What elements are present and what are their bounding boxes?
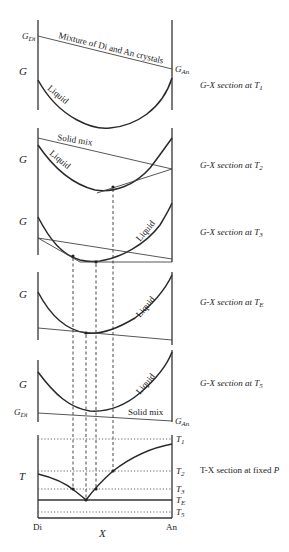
projection-lines (73, 189, 113, 500)
tangent-point-right (94, 260, 97, 263)
panel-caption: G-X section at T2 (200, 160, 263, 172)
panel-caption: G-X section at T3 (200, 227, 263, 239)
g-di-label: GDi (22, 31, 36, 43)
panel-t1: G GDi GAn Mixture of Di and An crystals … (19, 20, 263, 128)
solid-mix-line (38, 238, 172, 259)
panel-caption: G-X section at T5 (200, 378, 263, 390)
t-axis-label: T (19, 470, 26, 482)
g-axis-label: G (19, 215, 27, 227)
g-axis-label: G (19, 288, 27, 300)
solid-mix-line (38, 328, 172, 340)
g-axis-label: G (19, 378, 27, 390)
t2-label: T2 (176, 466, 185, 478)
liquidus-di (38, 474, 86, 500)
g-axis-label: G (19, 65, 27, 77)
liquid-label: Liquid (134, 294, 157, 319)
t5-label: T5 (176, 507, 185, 519)
solid-mixture-label: Mixture of Di and An crystals (58, 30, 165, 66)
point-t2 (111, 469, 114, 472)
g-x-t-x-diagram: G GDi GAn Mixture of Di and An crystals … (0, 0, 289, 552)
tx-caption: T-X section at fixed P (200, 465, 280, 475)
tangent-point-left (71, 254, 74, 257)
panel-t5: G GDi GAn Liquid Solid mix G-X section a… (14, 350, 263, 428)
panel-t3: G Liquid G-X section at T3 (19, 197, 263, 264)
an-label: An (166, 522, 177, 532)
tangent-line (97, 169, 172, 193)
panel-t2: G Solid mix Liquid G-X section at T2 (19, 128, 263, 197)
liquid-label: Liquid (48, 148, 73, 171)
eutectic-point (84, 498, 87, 501)
g-an-label: GAn (175, 416, 190, 428)
liquid-curve (38, 138, 172, 191)
g-di-label: GDi (14, 407, 28, 419)
liquid-label: Liquid (134, 371, 157, 396)
point-t3-left (71, 487, 74, 490)
liquidus-an (86, 444, 172, 500)
g-axis-label: G (19, 153, 27, 165)
x-axis-label: X (98, 527, 107, 539)
g-an-label: GAn (175, 64, 190, 76)
liquid-label: Liquid (46, 83, 71, 106)
liquid-curve (38, 78, 172, 128)
point-t3-right (94, 487, 97, 490)
panel-te: G Liquid G-X section at TE (19, 272, 264, 345)
panel-caption: G-X section at TE (200, 297, 264, 309)
solid-mix-label: Solid mix (57, 132, 94, 147)
di-label: Di (33, 522, 42, 532)
eutectic-tangent-point (84, 331, 87, 334)
t1-label: T1 (176, 434, 185, 446)
tx-section: T T1 T2 T3 TE T5 T-X section at fixed P … (19, 434, 280, 539)
panel-caption: G-X section at T1 (200, 80, 263, 92)
te-label: TE (176, 495, 186, 507)
tangent-point (111, 185, 114, 188)
solid-mix-label: Solid mix (128, 407, 164, 417)
liquid-curve (38, 203, 172, 262)
